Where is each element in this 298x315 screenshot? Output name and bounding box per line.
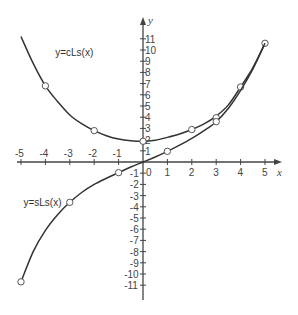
y-tick-label: 7	[145, 79, 151, 90]
y-tick-label: -7	[130, 235, 139, 246]
data-point-marker	[164, 148, 170, 154]
data-point-marker	[91, 127, 97, 133]
x-axis-arrow-icon	[274, 159, 282, 165]
data-point-marker	[18, 279, 24, 285]
y-tick-label: 3	[145, 123, 151, 134]
x-tick-label: -3	[64, 148, 73, 159]
series-label: y=cLs(x)	[55, 47, 93, 58]
y-tick-label: 5	[145, 101, 151, 112]
y-tick-label: -11	[124, 280, 138, 291]
y-tick-label: -9	[130, 258, 139, 269]
x-axis-label: x	[276, 166, 282, 178]
data-point-marker	[67, 199, 73, 205]
x-tick-label: 3	[213, 167, 219, 178]
data-point-marker	[189, 126, 195, 132]
y-tick-label: 11	[145, 34, 156, 45]
series-label: y=sLs(x)	[23, 197, 61, 208]
function-plot: xy-5-4-3-2-1123450-11-10-9-8-7-6-5-4-3-2…	[0, 0, 298, 315]
y-tick-label: 1	[145, 146, 151, 157]
x-tick-label: 1	[164, 167, 170, 178]
y-tick-label: -3	[130, 191, 139, 202]
x-tick-label: 5	[262, 167, 268, 178]
x-tick-label: 2	[189, 167, 195, 178]
y-tick-label: -8	[130, 247, 139, 258]
labels: xy-5-4-3-2-1123450-11-10-9-8-7-6-5-4-3-2…	[15, 14, 282, 291]
y-tick-label: -1	[130, 168, 139, 179]
y-axis-arrow-icon	[140, 17, 146, 25]
x-tick-label: -4	[39, 148, 48, 159]
y-tick-label: 6	[145, 90, 151, 101]
data-point-marker	[115, 169, 121, 175]
data-point-marker	[213, 118, 219, 124]
x-tick-label: -1	[113, 148, 122, 159]
y-tick-label: 8	[145, 67, 151, 78]
y-tick-label: -5	[130, 213, 139, 224]
data-point-marker	[262, 40, 268, 46]
origin-label: 0	[146, 167, 152, 178]
y-tick-label: 10	[145, 45, 157, 56]
y-axis-label: y	[147, 14, 153, 26]
y-tick-label: 2	[145, 135, 151, 146]
x-tick-label: 4	[238, 167, 244, 178]
y-tick-label: 9	[145, 56, 151, 67]
x-tick-label: -2	[88, 148, 97, 159]
y-tick-label: -6	[130, 224, 139, 235]
data-point-marker	[42, 83, 48, 89]
y-tick-label: 4	[145, 112, 151, 123]
y-tick-label: -10	[124, 269, 139, 280]
x-tick-label: -5	[15, 148, 24, 159]
y-tick-label: -4	[130, 202, 139, 213]
y-tick-label: -2	[130, 179, 139, 190]
